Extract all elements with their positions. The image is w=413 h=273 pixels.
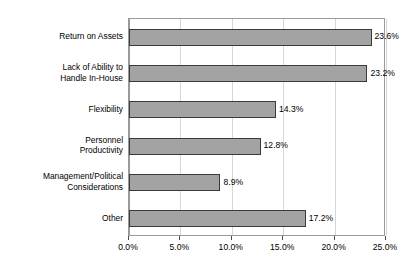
bar-5[interactable] [129, 210, 306, 227]
category-label-0: Return on Assets [0, 31, 123, 41]
gridline-5 [386, 19, 387, 235]
x-axis: 0.0% 5.0% 10.0% 15.0% 20.0% 25.0% [128, 236, 385, 266]
x-tick-mark-1 [179, 236, 180, 240]
category-axis: Return on Assets Lack of Ability to Hand… [0, 18, 126, 236]
x-tick-mark-4 [334, 236, 335, 240]
bars-layer [129, 19, 384, 235]
x-tick-mark-5 [385, 236, 386, 240]
x-tick-label-2: 10.0% [219, 242, 243, 252]
x-tick-label-0: 0.0% [118, 242, 138, 252]
plot-area [128, 18, 385, 236]
bar-2[interactable] [129, 101, 276, 118]
x-tick-mark-3 [282, 236, 283, 240]
category-label-3: Personnel Productivity [0, 135, 123, 155]
bar-chart: Return on Assets Lack of Ability to Hand… [0, 0, 413, 273]
category-label-5: Other [0, 213, 123, 223]
category-label-4: Management/Political Considerations [0, 171, 123, 191]
x-tick-label-1: 5.0% [170, 242, 190, 252]
x-tick-label-3: 15.0% [270, 242, 294, 252]
bar-1[interactable] [129, 65, 367, 82]
x-tick-label-5: 25.0% [373, 242, 397, 252]
bar-4[interactable] [129, 174, 220, 191]
bar-0[interactable] [129, 29, 372, 46]
bar-3[interactable] [129, 138, 261, 155]
x-tick-label-4: 20.0% [321, 242, 345, 252]
x-tick-mark-2 [231, 236, 232, 240]
x-tick-mark-0 [128, 236, 129, 240]
category-label-2: Flexibility [0, 104, 123, 114]
category-label-1: Lack of Ability to Handle In-House [0, 62, 123, 82]
